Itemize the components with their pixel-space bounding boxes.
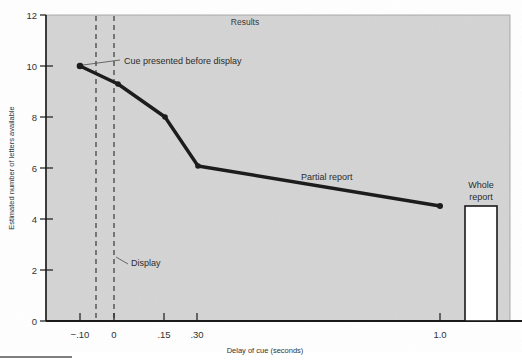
x-tick-label-100: 1.0	[433, 329, 446, 340]
partial-report-label: Partial report	[301, 172, 353, 182]
y-tick-label-12: 12	[26, 10, 37, 21]
whole-report-bar	[465, 206, 497, 321]
x-tick-label-15: .15	[157, 329, 170, 340]
results-chart: 0 2 4 6 8 10 12 Estimated number of lett…	[0, 0, 522, 363]
y-tick-label-4: 4	[32, 214, 37, 225]
cue-annotation-label: Cue presented before display	[124, 56, 242, 66]
y-tick-label-0: 0	[32, 316, 37, 327]
y-tick-label-2: 2	[32, 265, 37, 276]
y-tick-label-6: 6	[32, 163, 37, 174]
y-tick-label-10: 10	[26, 61, 37, 72]
y-axis-title: Estimated number of letters available	[7, 106, 16, 229]
y-tick-label-8: 8	[32, 112, 37, 123]
x-tick-label-0: 0	[111, 329, 116, 340]
figure-container: 0 2 4 6 8 10 12 Estimated number of lett…	[0, 0, 522, 363]
data-point-0	[115, 81, 121, 87]
whole-report-label-line1: Whole	[468, 180, 494, 190]
x-axis-title: Delay of cue (seconds)	[227, 346, 304, 355]
data-point-15	[162, 114, 168, 120]
chart-title: Results	[231, 17, 259, 27]
data-point-30	[195, 163, 201, 169]
x-tick-label-neg10: −.10	[71, 329, 90, 340]
data-point-neg10	[77, 63, 84, 70]
display-annotation-label: Display	[131, 258, 161, 268]
whole-report-label-line2: report	[469, 192, 493, 202]
x-tick-label-30: .30	[190, 329, 203, 340]
data-point-100	[437, 203, 443, 209]
